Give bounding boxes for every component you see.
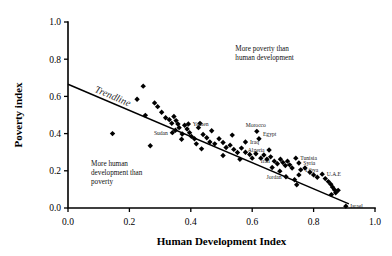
data-point: [155, 104, 160, 109]
point-label-sudan: Sudan: [154, 130, 168, 136]
y-axis-title: Poverty index: [12, 82, 24, 148]
y-tick-label: 0.4: [49, 129, 61, 139]
data-point: [152, 100, 157, 105]
point-label-yemen: Yemen: [193, 121, 209, 127]
data-point: [296, 172, 301, 177]
annotations-group: More poverty thanhuman developmentMore h…: [91, 45, 294, 186]
more-poverty-annotation-line-1: More poverty than: [235, 45, 289, 53]
data-point: [235, 150, 240, 155]
data-point: [243, 139, 248, 144]
data-point: [209, 128, 214, 133]
data-point: [220, 153, 225, 158]
data-point: [239, 145, 244, 150]
data-point: [159, 110, 164, 115]
data-point: [199, 146, 204, 151]
more-human-development-annotation-line-2: development than: [91, 169, 143, 177]
x-tick-label: 0.0: [62, 217, 74, 227]
scatter-plot-svg: 0.00.20.40.60.81.00.00.20.40.60.81.0 Tre…: [0, 0, 392, 256]
data-point: [148, 143, 153, 148]
point-label-uae: U.A.E: [327, 171, 342, 177]
y-tick-label: 1.0: [49, 17, 61, 27]
chart-figure: 0.00.20.40.60.81.00.00.20.40.60.81.0 Tre…: [0, 0, 392, 256]
trendline-label: Trendline: [93, 83, 133, 108]
data-point: [230, 132, 235, 137]
data-point: [204, 135, 209, 140]
point-label-iran: Iran: [261, 158, 270, 164]
data-point: [179, 136, 184, 141]
data-point: [216, 136, 221, 141]
data-point: [220, 140, 225, 145]
x-tick-label: 0.8: [308, 217, 320, 227]
data-point: [194, 141, 199, 146]
data-point: [141, 83, 146, 88]
data-point: [110, 131, 115, 136]
data-point: [231, 147, 236, 152]
y-tick-label: 0.0: [49, 203, 61, 213]
data-point: [266, 147, 271, 152]
data-point: [254, 129, 259, 134]
data-point: [293, 155, 298, 160]
point-label-libya: Libya: [305, 167, 319, 173]
point-label-iraq: Iraq: [250, 139, 259, 145]
data-point: [200, 132, 205, 137]
x-tick-label: 0.2: [123, 217, 135, 227]
more-human-development-annotation-line-1: More human: [91, 160, 128, 168]
more-human-development-annotation-line-3: poverty: [91, 178, 113, 186]
point-label-algeria: Algeria: [248, 147, 265, 153]
point-label-syria: Syria: [303, 160, 315, 166]
point-label-jordan: Jordan: [267, 174, 282, 180]
y-tick-label: 0.8: [49, 55, 61, 65]
point-label-egypt: Egypt: [263, 131, 277, 137]
data-point: [319, 171, 324, 176]
more-poverty-annotation-line-2: human development: [235, 54, 293, 62]
data-point: [269, 165, 274, 170]
point-label-israel: Israel: [350, 203, 363, 209]
y-tick-label: 0.6: [49, 92, 61, 102]
x-tick-label: 1.0: [369, 217, 381, 227]
x-tick-label: 0.6: [246, 217, 258, 227]
point-label-morocco: Morocco: [246, 122, 266, 128]
data-point: [134, 96, 139, 101]
x-tick-label: 0.4: [185, 217, 197, 227]
y-tick-label: 0.2: [49, 166, 61, 176]
data-points-group: [110, 83, 349, 208]
x-axis-title: Human Development Index: [157, 235, 287, 247]
